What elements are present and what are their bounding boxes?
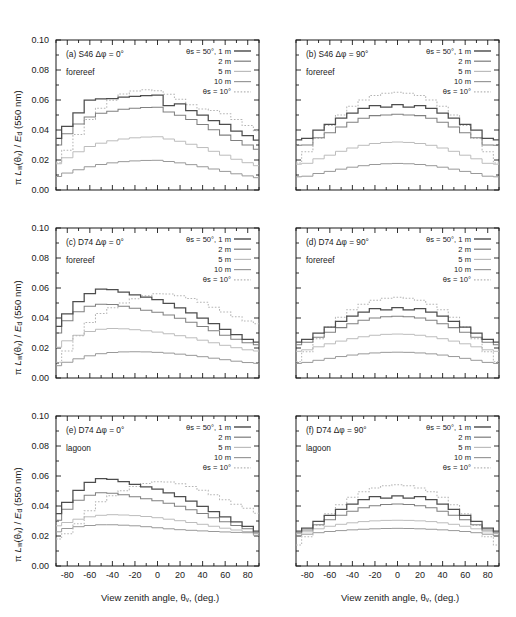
panel-b: (b) S46 Δφ = 90°forereefθs = 50°, 1 m2 m… <box>256 34 507 212</box>
legend-label: θs = 50°, 1 m <box>186 235 231 244</box>
x-tick-label: -20 <box>368 570 381 580</box>
x-tick-label: 80 <box>243 570 253 580</box>
x-tick-label: 40 <box>198 570 208 580</box>
y-tick-label: 0.04 <box>31 501 49 511</box>
legend-label: 5 m <box>218 255 231 264</box>
panel-label: (d) D74 Δφ = 90° <box>306 237 369 247</box>
x-tick-label: -20 <box>128 570 141 580</box>
legend-label: θs = 50°, 1 m <box>426 47 471 56</box>
y-tick-label: 0.08 <box>31 65 49 75</box>
x-axis-label-left: View zenith angle, θv, (deg.) <box>60 592 260 603</box>
y-tick-label: 0.06 <box>31 95 49 105</box>
legend-label: θs = 50°, 1 m <box>426 423 471 432</box>
legend-label: θs = 10° <box>203 87 231 96</box>
y-tick-label: 0.06 <box>31 471 49 481</box>
x-tick-label: -60 <box>323 570 336 580</box>
legend-label: 10 m <box>214 77 231 86</box>
x-tick-label: -80 <box>301 570 314 580</box>
panel-e: 0.000.020.040.060.080.10-80-60-40-200204… <box>16 410 267 588</box>
x-tick-label: -40 <box>346 570 359 580</box>
legend-label: 2 m <box>218 433 231 442</box>
panel-sublabel: lagoon <box>306 443 331 453</box>
legend-label: 5 m <box>458 443 471 452</box>
legend-label: 10 m <box>214 453 231 462</box>
x-tick-label: 40 <box>438 570 448 580</box>
legend-label: 5 m <box>218 67 231 76</box>
legend-label: 10 m <box>454 453 471 462</box>
legend-label: 5 m <box>458 67 471 76</box>
x-tick-label: -60 <box>83 570 96 580</box>
x-tick-label: 80 <box>483 570 493 580</box>
legend-label: θs = 50°, 1 m <box>186 47 231 56</box>
legend-label: 2 m <box>458 245 471 254</box>
legend-label: θs = 10° <box>443 275 471 284</box>
x-tick-label: 0 <box>395 570 400 580</box>
legend-label: 2 m <box>458 57 471 66</box>
panel-sublabel: forereef <box>306 255 335 265</box>
legend-label: 10 m <box>454 77 471 86</box>
y-tick-label: 0.02 <box>31 531 49 541</box>
y-tick-label: 0.02 <box>31 343 49 353</box>
y-tick-label: 0.10 <box>31 35 49 45</box>
panel-label: (b) S46 Δφ = 90° <box>306 49 368 59</box>
panel-sublabel: forereef <box>306 67 335 77</box>
legend-label: 5 m <box>218 443 231 452</box>
y-tick-label: 0.10 <box>31 411 49 421</box>
y-tick-label: 0.10 <box>31 223 49 233</box>
panel-f: -80-60-40-20020406080(f) D74 Δφ = 90°lag… <box>256 410 507 588</box>
x-tick-label: 60 <box>220 570 230 580</box>
y-tick-label: 0.00 <box>31 185 49 195</box>
panel-label: (e) D74 Δφ = 0° <box>66 425 124 435</box>
legend-label: θs = 10° <box>203 463 231 472</box>
legend-label: 10 m <box>214 265 231 274</box>
x-tick-label: 60 <box>460 570 470 580</box>
x-tick-label: 20 <box>175 570 185 580</box>
y-tick-label: 0.00 <box>31 373 49 383</box>
x-axis-label-right: View zenith angle, θv, (deg.) <box>300 592 500 603</box>
panel-label: (f) D74 Δφ = 90° <box>306 425 367 435</box>
panel-sublabel: lagoon <box>66 443 91 453</box>
legend-label: θs = 50°, 1 m <box>186 423 231 432</box>
panel-sublabel: forereef <box>66 67 95 77</box>
y-tick-label: 0.06 <box>31 283 49 293</box>
y-tick-label: 0.04 <box>31 125 49 135</box>
x-tick-label: 0 <box>155 570 160 580</box>
panel-a: 0.000.020.040.060.080.10(a) S46 Δφ = 0°f… <box>16 34 267 212</box>
legend-label: θs = 10° <box>443 87 471 96</box>
panel-label: (a) S46 Δφ = 0° <box>66 49 124 59</box>
y-tick-label: 0.00 <box>31 561 49 571</box>
panel-c: 0.000.020.040.060.080.10(c) D74 Δφ = 0°f… <box>16 222 267 400</box>
legend-label: 2 m <box>218 245 231 254</box>
legend-label: 10 m <box>454 265 471 274</box>
y-tick-label: 0.02 <box>31 155 49 165</box>
panel-sublabel: forereef <box>66 255 95 265</box>
legend-label: 2 m <box>218 57 231 66</box>
legend-label: θs = 10° <box>443 463 471 472</box>
legend-label: θs = 50°, 1 m <box>426 235 471 244</box>
panel-d: (d) D74 Δφ = 90°forereefθs = 50°, 1 m2 m… <box>256 222 507 400</box>
x-tick-label: 20 <box>415 570 425 580</box>
x-tick-label: -40 <box>106 570 119 580</box>
x-tick-label: -80 <box>61 570 74 580</box>
legend-label: 2 m <box>458 433 471 442</box>
legend-label: 5 m <box>458 255 471 264</box>
y-tick-label: 0.08 <box>31 253 49 263</box>
legend-label: θs = 10° <box>203 275 231 284</box>
y-tick-label: 0.08 <box>31 441 49 451</box>
y-tick-label: 0.04 <box>31 313 49 323</box>
panel-label: (c) D74 Δφ = 0° <box>66 237 124 247</box>
figure-root: π Lw(θv) / Ed (550 nm) π Lw(θv) / Ed (55… <box>0 0 516 617</box>
